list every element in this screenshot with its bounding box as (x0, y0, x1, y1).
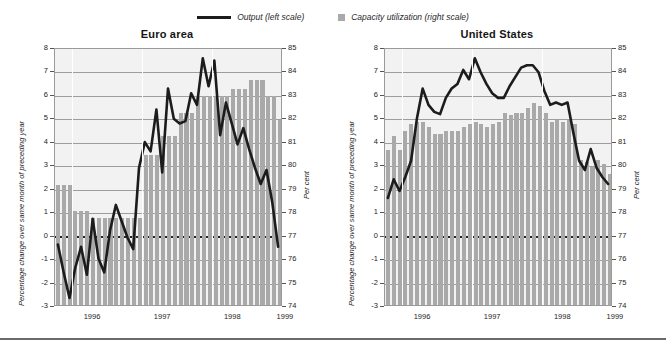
y-axis-left-tick-mark (50, 71, 54, 72)
y-axis-right-tick-label: 76 (288, 255, 310, 263)
footer-divider (0, 338, 666, 340)
y-axis-right-tick-label: 80 (618, 161, 640, 169)
x-axis-tick-label: 1996 (68, 312, 116, 321)
year-separator (542, 49, 543, 305)
y-axis-right-tick-mark (282, 259, 286, 260)
y-axis-left-tick-label: -1 (26, 255, 48, 263)
y-axis-left-tick-label: 3 (26, 161, 48, 169)
y-axis-right-tick-mark (612, 283, 616, 284)
square-swatch-icon (338, 14, 345, 21)
y-axis-left-tick-label: 2 (26, 185, 48, 193)
panel-united-states: United States 88578468358248138027917807… (338, 28, 656, 334)
y-axis-right-tick-label: 80 (288, 161, 310, 169)
y-axis-left-tick-mark (380, 189, 384, 190)
y-axis-left-tick-mark (50, 165, 54, 166)
legend-label-output: Output (left scale) (237, 12, 304, 22)
y-axis-left-tick-label: 4 (356, 138, 378, 146)
chart-legend: Output (left scale) Capacity utilization… (0, 8, 666, 26)
y-axis-right-tick-mark (612, 48, 616, 49)
legend-entry-output: Output (left scale) (197, 12, 304, 22)
plot-area-euro-area (54, 48, 282, 306)
y-axis-left-tick-label: 7 (356, 67, 378, 75)
y-axis-left-tick-label: -2 (26, 279, 48, 287)
y-axis-right-title: Per cent (632, 171, 641, 199)
y-axis-left-tick-label: -3 (356, 302, 378, 310)
y-axis-left-tick-label: 5 (26, 114, 48, 122)
y-axis-left-tick-mark (50, 212, 54, 213)
y-axis-right-tick-label: 81 (288, 138, 310, 146)
y-axis-left-tick-label: 1 (26, 208, 48, 216)
x-axis-tick-label: 1996 (398, 312, 446, 321)
y-axis-right-tick-mark (282, 283, 286, 284)
y-axis-right-tick-mark (282, 142, 286, 143)
y-axis-right-tick-mark (612, 189, 616, 190)
y-axis-right-tick-label: 82 (618, 114, 640, 122)
y-axis-left-tick-mark (50, 95, 54, 96)
y-axis-right-tick-label: 82 (288, 114, 310, 122)
y-axis-right-tick-label: 74 (288, 302, 310, 310)
y-axis-right-tick-mark (612, 259, 616, 260)
year-separator (142, 49, 143, 305)
y-axis-right-tick-label: 85 (288, 44, 310, 52)
y-axis-right-tick-label: 84 (618, 67, 640, 75)
y-axis-left-tick-mark (380, 142, 384, 143)
y-axis-right-tick-mark (612, 95, 616, 96)
y-axis-left-tick-mark (50, 236, 54, 237)
line-series-output-euro (55, 49, 281, 305)
y-axis-right-tick-mark (612, 165, 616, 166)
y-axis-left-tick-mark (380, 306, 384, 307)
y-axis-left-tick-mark (380, 118, 384, 119)
y-axis-right-tick-label: 75 (288, 279, 310, 287)
y-axis-left-tick-mark (50, 283, 54, 284)
y-axis-right-tick-label: 84 (288, 67, 310, 75)
y-axis-left-tick-label: 0 (356, 232, 378, 240)
y-axis-right-tick-label: 77 (288, 232, 310, 240)
y-axis-left-tick-mark (380, 71, 384, 72)
x-axis-tick-label: 1999 (591, 312, 639, 321)
y-axis-right-tick-mark (612, 118, 616, 119)
y-axis-right-tick-mark (282, 118, 286, 119)
y-axis-right-tick-label: 74 (618, 302, 640, 310)
y-axis-right-tick-mark (612, 236, 616, 237)
y-axis-left-tick-mark (50, 118, 54, 119)
y-axis-right-tick-label: 75 (618, 279, 640, 287)
y-axis-left-tick-mark (380, 212, 384, 213)
legend-label-capacity: Capacity utilization (right scale) (351, 12, 469, 22)
year-separator (72, 49, 73, 305)
y-axis-left-title: Percentage change over same month of pre… (347, 121, 356, 306)
y-axis-left-title: Percentage change over same month of pre… (17, 121, 26, 306)
y-axis-right-tick-label: 83 (288, 91, 310, 99)
y-axis-right-tick-mark (282, 306, 286, 307)
panel-euro-area: Euro area 885784683582481380279178077-17… (8, 28, 326, 334)
y-axis-left-tick-label: 0 (26, 232, 48, 240)
year-separator (472, 49, 473, 305)
y-axis-left-tick-label: 8 (356, 44, 378, 52)
y-axis-left-tick-label: -2 (356, 279, 378, 287)
y-axis-left-tick-label: 2 (356, 185, 378, 193)
panel-title-euro-area: Euro area (8, 28, 326, 40)
chart-figure: Output (left scale) Capacity utilization… (0, 0, 666, 348)
y-axis-right-tick-label: 85 (618, 44, 640, 52)
y-axis-right-tick-mark (282, 189, 286, 190)
y-axis-left-tick-mark (50, 142, 54, 143)
y-axis-right-tick-mark (282, 236, 286, 237)
y-axis-left-tick-label: 4 (26, 138, 48, 146)
y-axis-right-tick-mark (282, 95, 286, 96)
y-axis-right-tick-label: 76 (618, 255, 640, 263)
y-axis-left-tick-mark (380, 283, 384, 284)
y-axis-right-tick-label: 81 (618, 138, 640, 146)
y-axis-left-tick-mark (50, 189, 54, 190)
y-axis-left-tick-label: -3 (26, 302, 48, 310)
x-axis-tick-label: 1997 (138, 312, 186, 321)
y-axis-left-tick-label: 6 (356, 91, 378, 99)
y-axis-right-tick-mark (282, 165, 286, 166)
y-axis-left-tick-label: -1 (356, 255, 378, 263)
year-separator (402, 49, 403, 305)
x-axis-tick-label: 1998 (538, 312, 586, 321)
line-series-output-us (385, 49, 611, 305)
panel-title-united-states: United States (338, 28, 656, 40)
y-axis-left-tick-mark (380, 165, 384, 166)
y-axis-left-tick-label: 5 (356, 114, 378, 122)
y-axis-left-tick-label: 6 (26, 91, 48, 99)
y-axis-left-tick-mark (380, 95, 384, 96)
